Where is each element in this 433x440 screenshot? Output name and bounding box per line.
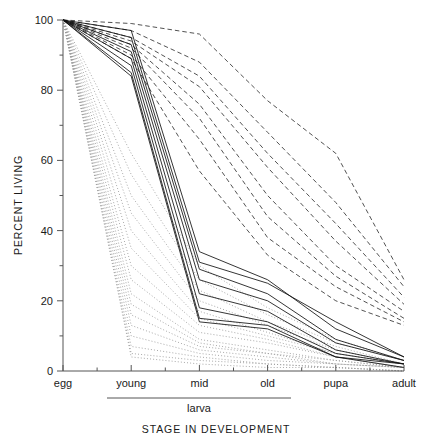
y-axis-title: PERCENT LIVING [12,155,24,255]
y-tick-label-20: 20 [41,295,53,307]
x-category-label-pupa: pupa [324,377,349,389]
chart-background [0,0,433,440]
x-category-label-mid: mid [191,377,209,389]
survivorship-chart-figure: 020406080100 eggyoungmidoldpupaadult lar… [0,0,433,440]
x-category-label-adult: adult [392,377,416,389]
x-category-label-young: young [116,377,146,389]
y-tick-label-80: 80 [41,84,53,96]
chart-canvas: 020406080100 eggyoungmidoldpupaadult lar… [0,0,433,440]
x-axis-title: STAGE IN DEVELOPMENT [142,423,291,435]
y-tick-label-60: 60 [41,154,53,166]
x-category-label-egg: egg [54,377,72,389]
y-tick-label-0: 0 [47,365,53,377]
x-category-label-old: old [260,377,275,389]
y-tick-label-40: 40 [41,225,53,237]
y-tick-label-100: 100 [35,14,53,26]
larva-group-label: larva [187,402,212,414]
